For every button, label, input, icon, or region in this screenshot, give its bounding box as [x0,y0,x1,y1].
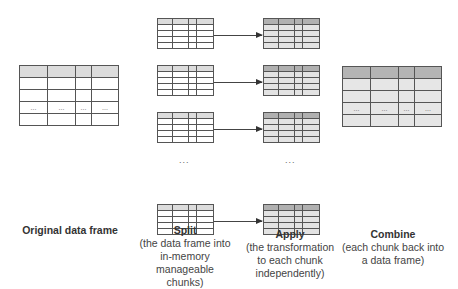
apply-chunk-1 [263,18,320,49]
original-title: Original data frame [10,224,130,237]
arrow-icon [214,82,262,83]
apply-ellipsis: ... [285,155,296,165]
apply-desc-line: independently) [240,267,340,280]
split-label: Split (the data frame into in-memory man… [130,224,240,289]
arrow-icon [214,129,262,130]
apply-title: Apply [240,228,340,241]
combine-label: Combine (each chunk back into a data fra… [338,228,448,267]
apply-chunk-3 [263,112,320,143]
ellipsis-cell: ... [92,102,119,114]
ellipsis-cell: ... [371,103,399,115]
split-chunk-2 [157,65,214,96]
ellipsis-cell: ... [48,102,76,114]
split-chunk-3 [157,112,214,143]
apply-label: Apply (the transformation to each chunk … [240,228,340,280]
apply-desc-line: (the transformation [240,241,340,254]
ellipsis-cell: ... [415,103,442,115]
combined-data-frame-table: ... ... ... ... [342,66,442,127]
original-label: Original data frame [10,224,130,237]
arrow-icon [214,221,262,222]
split-desc-line: (the data frame into [130,237,240,250]
original-data-frame-table: ... ... ... ... [19,65,119,126]
split-desc-line: chunks) [130,276,240,289]
apply-chunk-2 [263,65,320,96]
arrow-icon [214,35,262,36]
ellipsis-cell: ... [76,102,92,114]
ellipsis-cell: ... [399,103,415,115]
split-chunk-1 [157,18,214,49]
combine-title: Combine [338,228,448,241]
ellipsis-cell: ... [343,103,371,115]
split-ellipsis: ... [179,155,190,165]
combine-desc-line: (each chunk back into [338,241,448,254]
split-desc-line: in-memory manageable [130,250,240,276]
apply-desc-line: to each chunk [240,254,340,267]
combine-desc-line: a data frame) [338,254,448,267]
split-title: Split [130,224,240,237]
ellipsis-cell: ... [20,102,48,114]
